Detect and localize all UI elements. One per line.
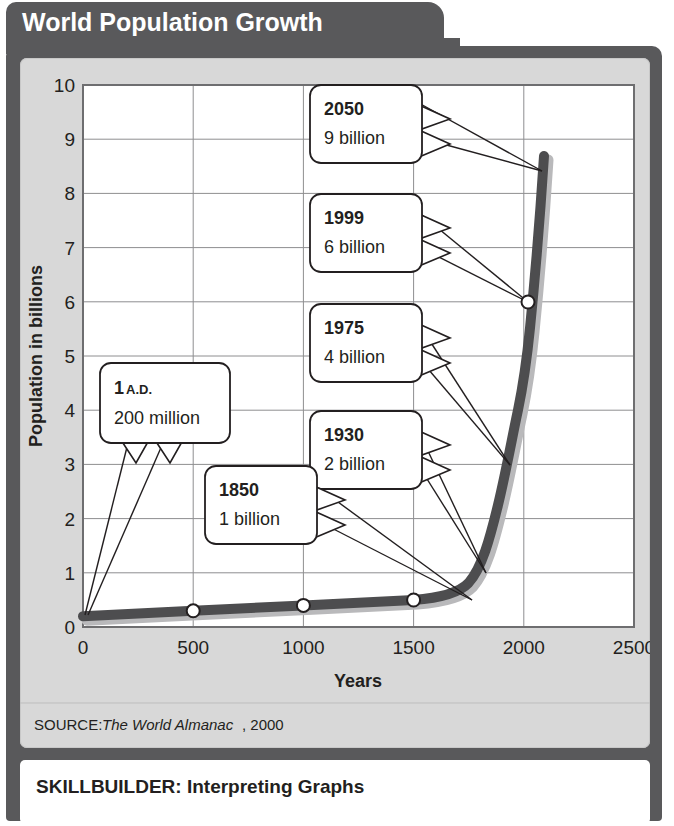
callout-1930-value: 2 billion bbox=[324, 454, 385, 474]
y-tick-10: 10 bbox=[54, 75, 75, 96]
x-tick-500: 500 bbox=[177, 637, 209, 658]
callout-1850-value: 1 billion bbox=[219, 509, 280, 529]
callout-1ad-suffix: A.D. bbox=[126, 382, 152, 397]
x-tick-1500: 1500 bbox=[392, 637, 434, 658]
x-axis-title: Years bbox=[334, 671, 382, 691]
callout-1930-year: 1930 bbox=[324, 425, 364, 445]
y-tick-0: 0 bbox=[64, 617, 75, 638]
y-tick-2: 2 bbox=[64, 509, 75, 530]
x-axis-tick-labels: 0 500 1000 1500 2000 2500 bbox=[78, 637, 650, 658]
source-line: SOURCE: The World Almanac , 2000 bbox=[34, 716, 284, 733]
skillbuilder-panel: SKILLBUILDER: Interpreting Graphs bbox=[20, 760, 650, 822]
y-tick-9: 9 bbox=[64, 129, 75, 150]
callout-1850-year: 1850 bbox=[219, 480, 259, 500]
x-tick-0: 0 bbox=[78, 637, 89, 658]
y-tick-7: 7 bbox=[64, 238, 75, 259]
source-prefix: SOURCE: bbox=[34, 716, 102, 733]
callout-2050-value: 9 billion bbox=[324, 128, 385, 148]
callout-2050-year: 2050 bbox=[324, 99, 364, 119]
y-tick-5: 5 bbox=[64, 346, 75, 367]
source-year: , 2000 bbox=[242, 716, 284, 733]
chart-panel: 2050 9 billion 1999 6 billion 1975 4 bil… bbox=[20, 58, 650, 748]
callout-1ad-value: 200 million bbox=[114, 408, 200, 428]
y-axis-title: Population in billions bbox=[26, 265, 46, 447]
x-tick-1000: 1000 bbox=[282, 637, 324, 658]
x-tick-2000: 2000 bbox=[503, 637, 545, 658]
y-tick-4: 4 bbox=[64, 400, 75, 421]
callout-1ad-year: 1 bbox=[114, 378, 124, 398]
population-growth-figure: World Population Growth bbox=[0, 0, 674, 826]
marker-1000 bbox=[297, 599, 310, 612]
callout-1975-value: 4 billion bbox=[324, 347, 385, 367]
y-tick-6: 6 bbox=[64, 292, 75, 313]
callout-1975-year: 1975 bbox=[324, 318, 364, 338]
y-tick-3: 3 bbox=[64, 454, 75, 475]
marker-1999 bbox=[522, 296, 535, 309]
chart-svg: 2050 9 billion 1999 6 billion 1975 4 bil… bbox=[20, 58, 650, 748]
x-tick-2500: 2500 bbox=[613, 637, 650, 658]
marker-1500 bbox=[407, 594, 420, 607]
skillbuilder-heading: SKILLBUILDER: Interpreting Graphs bbox=[36, 776, 364, 798]
marker-500 bbox=[187, 604, 200, 617]
page-title: World Population Growth bbox=[22, 8, 323, 37]
source-publication: The World Almanac bbox=[102, 716, 234, 733]
y-tick-8: 8 bbox=[64, 183, 75, 204]
callout-1999-value: 6 billion bbox=[324, 237, 385, 257]
y-tick-1: 1 bbox=[64, 563, 75, 584]
callout-1999-year: 1999 bbox=[324, 208, 364, 228]
y-axis-tick-labels: 10 9 8 7 6 5 4 3 2 1 0 bbox=[54, 75, 76, 638]
